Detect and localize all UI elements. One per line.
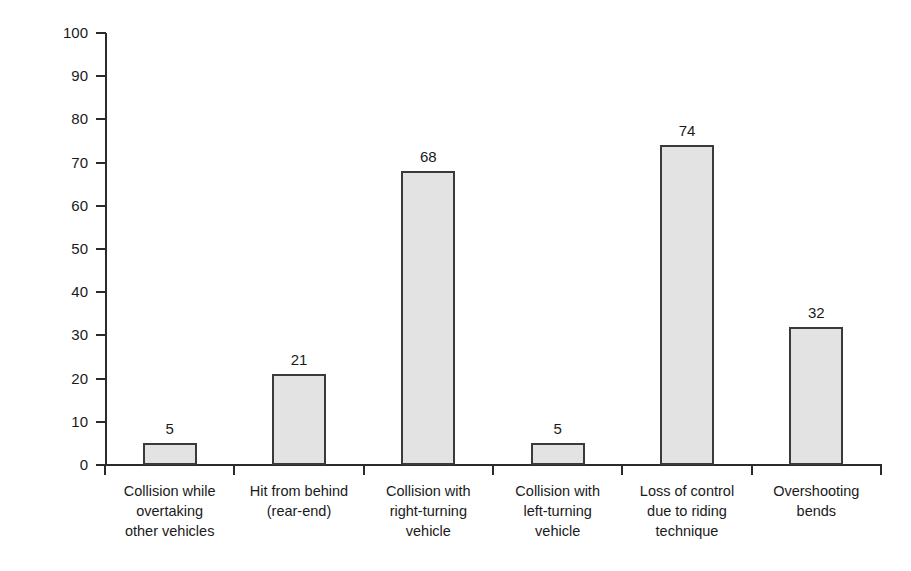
y-axis-tick-label: 10: [42, 414, 88, 429]
bar: [272, 374, 326, 465]
x-axis-label-line: other vehicles: [105, 521, 234, 541]
y-axis-tick-label: 70: [42, 155, 88, 170]
x-axis-tick: [363, 464, 365, 475]
x-axis-label-line: Collision while: [105, 481, 234, 501]
y-axis-tick: [96, 378, 106, 380]
y-axis-tick-label: 40: [42, 284, 88, 299]
bar-value-label: 32: [776, 305, 856, 321]
x-axis-label-line: bends: [752, 501, 881, 521]
x-axis-category-label: Collision withright-turningvehicle: [364, 481, 493, 541]
y-axis-tick: [96, 248, 106, 250]
y-axis-tick-label-wrap: 20: [40, 371, 88, 386]
bar: [401, 171, 455, 465]
x-axis-tick: [621, 464, 623, 475]
x-axis-category-label: Loss of controldue to ridingtechnique: [622, 481, 751, 541]
y-axis-tick: [96, 75, 106, 77]
x-axis-label-line: vehicle: [364, 521, 493, 541]
y-axis-tick-label: 80: [42, 111, 88, 126]
y-axis-tick-label: 60: [42, 198, 88, 213]
bar: [660, 145, 714, 465]
bar-value-label: 68: [388, 149, 468, 165]
y-axis-tick-label-wrap: 0: [40, 457, 88, 472]
bar-value-label: 5: [518, 421, 598, 437]
y-axis-tick: [96, 118, 106, 120]
y-axis-tick-label-wrap: 100: [40, 25, 88, 40]
x-axis-label-line: right-turning: [364, 501, 493, 521]
x-axis-category-label: Hit from behind(rear-end): [234, 481, 363, 521]
y-axis-tick-label: 90: [42, 68, 88, 83]
y-axis-tick-label-wrap: 30: [40, 327, 88, 342]
y-axis-tick-label-wrap: 70: [40, 155, 88, 170]
x-axis-category-label: Collision withleft-turningvehicle: [493, 481, 622, 541]
x-axis-label-line: Collision with: [364, 481, 493, 501]
x-axis-label-line: (rear-end): [234, 501, 363, 521]
bar-value-label: 21: [259, 352, 339, 368]
x-axis-label-line: overtaking: [105, 501, 234, 521]
y-axis-tick: [96, 291, 106, 293]
x-axis-label-line: Hit from behind: [234, 481, 363, 501]
y-axis-tick-label-wrap: 40: [40, 284, 88, 299]
x-axis-category-label: Overshootingbends: [752, 481, 881, 521]
y-axis-tick-label: 30: [42, 327, 88, 342]
bar: [531, 443, 585, 465]
bar: [789, 327, 843, 465]
y-axis-tick-label: 100: [42, 25, 88, 40]
y-axis-tick-label-wrap: 90: [40, 68, 88, 83]
y-axis-tick-label-wrap: 10: [40, 414, 88, 429]
x-axis-label-line: due to riding: [622, 501, 751, 521]
y-axis-tick: [96, 334, 106, 336]
y-axis-tick: [96, 205, 106, 207]
y-axis-tick: [96, 421, 106, 423]
x-axis-tick: [104, 464, 106, 475]
x-axis-tick: [492, 464, 494, 475]
x-axis-label-line: technique: [622, 521, 751, 541]
bar-value-label: 5: [130, 421, 210, 437]
bar: [143, 443, 197, 465]
y-axis-tick-label-wrap: 80: [40, 111, 88, 126]
x-axis-label-line: Collision with: [493, 481, 622, 501]
y-axis-tick: [96, 32, 106, 34]
x-axis-label-line: Loss of control: [622, 481, 751, 501]
y-axis-tick: [96, 162, 106, 164]
y-axis-tick-label: 50: [42, 241, 88, 256]
x-axis-label-line: left-turning: [493, 501, 622, 521]
y-axis-tick-label-wrap: 50: [40, 241, 88, 256]
x-axis-tick: [233, 464, 235, 475]
x-axis-label-line: vehicle: [493, 521, 622, 541]
y-axis-tick-label-wrap: 60: [40, 198, 88, 213]
y-axis-tick-label: 0: [42, 457, 88, 472]
x-axis-tick: [880, 464, 882, 475]
bar-value-label: 74: [647, 123, 727, 139]
x-axis-tick: [751, 464, 753, 475]
y-axis-tick-label: 20: [42, 371, 88, 386]
x-axis-label-line: Overshooting: [752, 481, 881, 501]
x-axis-category-label: Collision whileovertakingother vehicles: [105, 481, 234, 541]
bar-chart: Number of respondents (%) 10090807060504…: [0, 0, 911, 571]
